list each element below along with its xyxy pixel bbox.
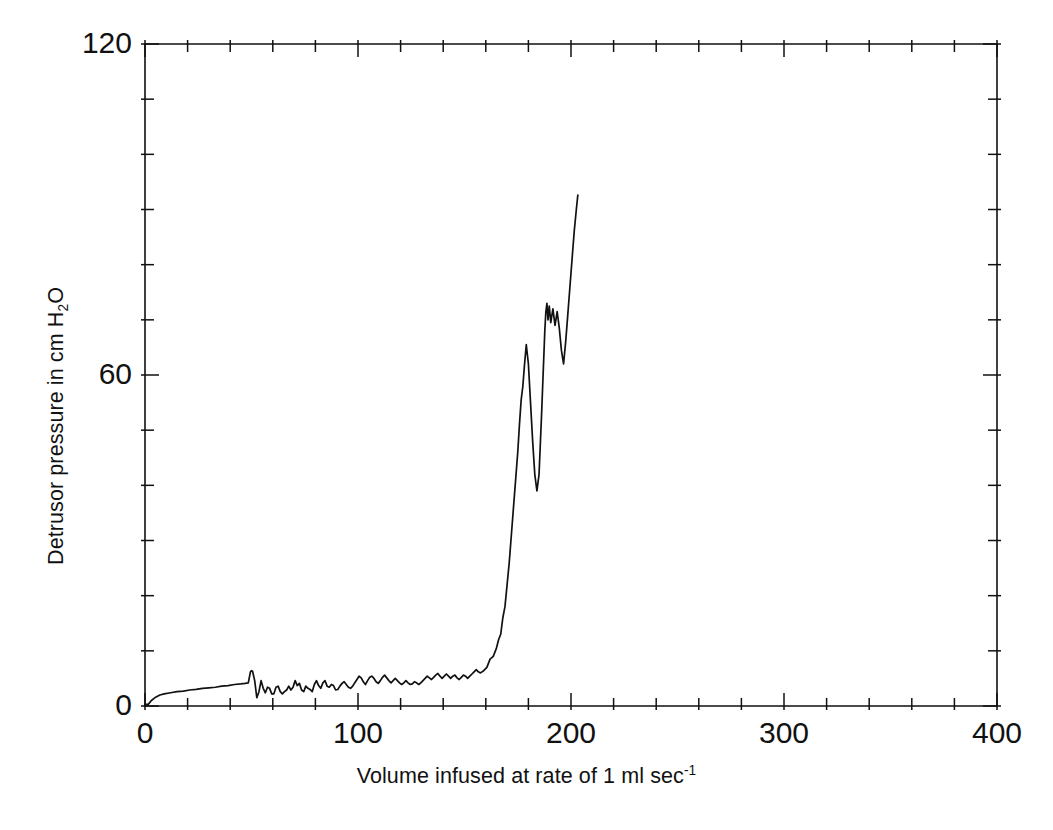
chart-figure (0, 0, 1053, 830)
xtick-label-400: 400 (957, 716, 1037, 750)
y-axis-title-text: Detrusor pressure in cm H (44, 312, 68, 565)
xtick-label-100: 100 (318, 716, 398, 750)
y-axis-title-text-post: O (44, 287, 68, 304)
xtick-label-200: 200 (531, 716, 611, 750)
x-axis-title-superscript: -1 (684, 763, 696, 778)
y-axis-title-subscript: 2 (56, 304, 71, 312)
xtick-label-0: 0 (105, 716, 185, 750)
ytick-label-120: 120 (60, 26, 132, 60)
x-axis-title-text: Volume infused at rate of 1 ml sec (357, 764, 684, 788)
xtick-label-300: 300 (744, 716, 824, 750)
x-axis-title: Volume infused at rate of 1 ml sec-1 (0, 763, 1053, 789)
y-axis-title: Detrusor pressure in cm H2O (44, 287, 71, 565)
